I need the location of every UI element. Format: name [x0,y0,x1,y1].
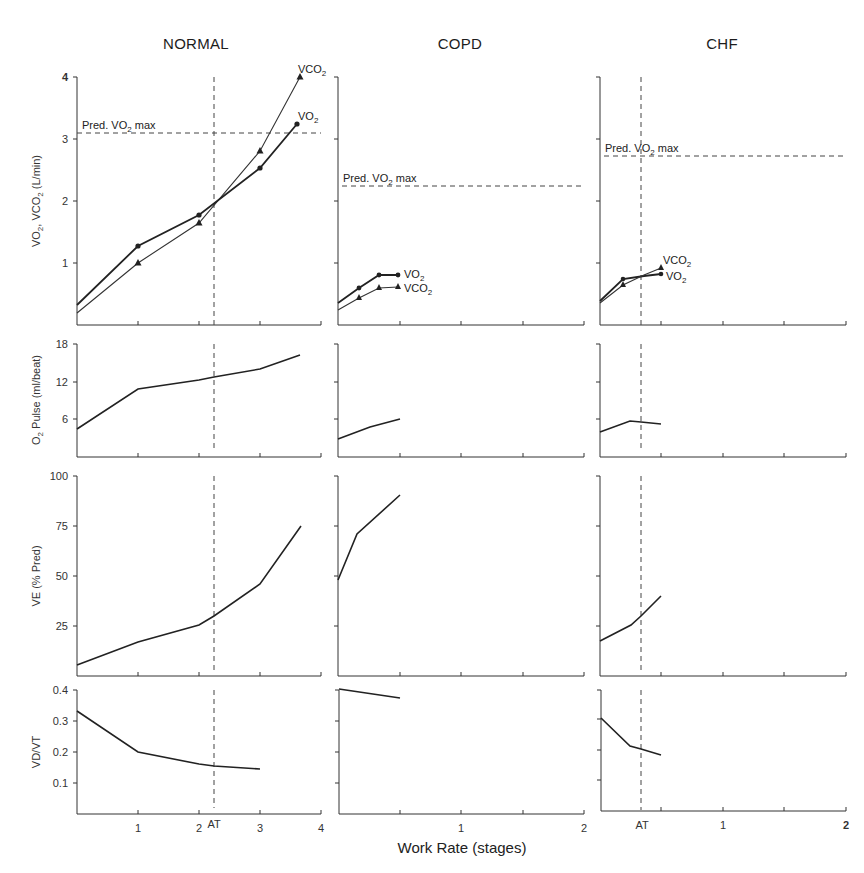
series-ve [77,526,301,665]
x-tick-label: 3 [257,822,263,834]
vo2-label: VO2 [404,268,425,283]
axis-lines [77,476,321,676]
series-vo2 [77,124,297,305]
axis-lines [600,344,846,457]
x-tick-label: 4 [318,822,324,834]
ylabel-o2-pulse: O2 Pulse (ml/beat) [30,355,45,445]
vco2-label: VCO2 [298,63,327,78]
ylabel-vd-vt: VD/VT [30,736,42,769]
panel-chf-vdvt: AT 1 2 [597,690,849,831]
series-vo2 [600,274,661,301]
at-label: AT [207,818,221,830]
ticks [334,77,584,325]
panel-copd-ve [334,476,584,676]
x-tick-label: 1 [135,822,141,834]
column-title-copd: COPD [438,35,483,52]
series-ve [600,596,661,641]
ticks [334,344,584,457]
column-title-chf: CHF [706,35,738,52]
y-ticks [73,77,321,325]
at-label: AT [635,819,649,831]
panel-copd-vdvt: 1 2 [335,689,587,834]
y-tick-label: 0.4 [53,684,68,696]
x-tick-label: 1 [720,819,726,831]
series-vco2 [600,268,661,303]
x-tick-label: 1 [458,822,464,834]
ticks [596,476,846,676]
axis-lines [338,476,584,676]
ticks [597,690,846,811]
column-title-normal: NORMAL [163,35,229,52]
axis-lines [77,77,321,325]
y-tick-label: 0.1 [53,777,68,789]
panel-copd-vo2: Pred. VO2 max VO2 VCO2 [334,77,584,325]
y-tick-label: 0.3 [53,715,68,727]
panel-chf-ve [596,476,846,676]
axis-lines [600,77,846,325]
axis-lines [600,476,846,676]
y-tick-label: 6 [62,413,68,425]
panel-normal-vdvt: 0.4 0.3 0.2 0.1 1 2 3 4 AT [53,684,324,834]
y-tick-label: 50 [56,570,68,582]
panel-normal-vo2: 4 3 2 1 Pred. VO2 max VCO2 VO2 [62,63,327,325]
axis-lines [601,690,846,811]
series-vo2 [338,275,398,303]
panel-chf-vo2: Pred. VO2 max VCO2 VO2 [596,77,846,325]
pred-vo2max-label: Pred. VO2 max [82,119,156,134]
y-tick-label: 4 [62,71,69,83]
axis-lines [338,344,584,457]
figure-canvas: NORMAL COPD CHF VO2, VCO2 (L/min) O2 Pul… [0,0,864,873]
series-o2pulse [600,421,661,432]
ylabel-vo2-vco2: VO2, VCO2 (L/min) [30,155,45,247]
series-vdvt [77,711,260,769]
panel-chf-o2pulse [596,344,846,457]
series-vdvt [601,718,661,755]
panel-copd-o2pulse [334,344,584,457]
ticks [335,690,584,814]
ticks [596,77,846,325]
series-vco2 [77,77,300,313]
ticks [73,690,321,814]
series-o2pulse [338,419,400,439]
vco2-label: VCO2 [663,254,692,269]
vco2-markers [135,73,304,266]
series-vco2 [338,287,398,310]
y-tick-label: 75 [56,520,68,532]
x-tick-label: 2 [843,819,849,831]
pred-vo2max-label: Pred. VO2 max [343,172,417,187]
y-tick-label: 100 [50,470,68,482]
vo2-label: VO2 [666,270,687,285]
x-axis-label: Work Rate (stages) [398,839,527,856]
panel-normal-ve: 100 75 50 25 [50,470,321,676]
y-tick-label: 18 [56,338,68,350]
axis-lines [338,77,584,325]
ylabel-ve: VE (% Pred) [30,545,42,606]
series-o2pulse [77,355,300,429]
ticks [73,476,321,676]
ticks [334,476,584,676]
axis-lines [339,690,584,814]
panel-normal-o2pulse: 18 12 6 [56,338,321,457]
y-tick-label: 12 [56,376,68,388]
vo2-label: VO2 [298,110,319,125]
y-tick-label: 25 [56,620,68,632]
x-tick-label: 2 [581,822,587,834]
y-tick-label: 3 [62,133,68,145]
pred-vo2max-label: Pred. VO2 max [605,142,679,157]
vo2-markers [135,121,299,248]
y-tick-label: 2 [62,195,68,207]
series-ve [338,495,400,580]
y-tick-label: 0.2 [53,746,68,758]
ticks [596,344,846,457]
series-vdvt [339,689,400,698]
axis-lines [77,690,321,814]
y-tick-label: 1 [62,257,68,269]
x-tick-label: 2 [196,822,202,834]
vco2-label: VCO2 [404,282,433,297]
